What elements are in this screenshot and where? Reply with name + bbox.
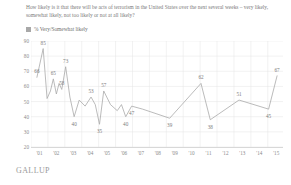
data-point-label: 73 — [63, 58, 68, 64]
data-point-label: 62 — [198, 74, 203, 80]
data-point-label: 66 — [34, 68, 39, 74]
x-tick-label: '07 — [138, 150, 144, 156]
x-tick-label: '14 — [256, 150, 262, 156]
gallup-logo: GALLUP — [16, 166, 50, 175]
x-tick-label: '09 — [172, 150, 178, 156]
x-tick-label: '08 — [155, 150, 161, 156]
data-point-label: 35 — [97, 128, 102, 134]
x-tick-label: '02 — [53, 150, 59, 156]
x-tick-label: '15 — [273, 150, 279, 156]
y-tick-label: 40 — [24, 114, 29, 120]
x-tick-label: '05 — [104, 150, 110, 156]
y-tick-label: 80 — [24, 53, 29, 59]
y-tick-label: 60 — [24, 83, 29, 89]
y-tick-label: 20 — [24, 144, 29, 150]
data-point-label: 58 — [59, 80, 64, 86]
legend-swatch-icon — [26, 27, 31, 32]
data-point-label: 65 — [51, 70, 56, 76]
chart-legend: % Very/Somewhat likely — [26, 26, 88, 32]
chart-question-title: How likely is it that there will be acts… — [26, 3, 276, 19]
data-point-label: 53 — [88, 88, 93, 94]
data-point-label: 47 — [129, 110, 134, 116]
y-tick-label: 50 — [24, 99, 29, 105]
x-tick-label: '13 — [239, 150, 245, 156]
x-axis-baseline — [31, 147, 283, 148]
x-tick-label: '03 — [70, 150, 76, 156]
chart-plot-area — [31, 41, 283, 147]
data-point-label: 40 — [72, 121, 77, 127]
data-point-label: 39 — [167, 122, 172, 128]
x-tick-label: '11 — [206, 150, 212, 156]
data-point-label: 57 — [101, 82, 106, 88]
x-tick-label: '10 — [189, 150, 195, 156]
y-tick-label: 70 — [24, 68, 29, 74]
x-tick-label: '04 — [87, 150, 93, 156]
x-tick-label: '01 — [36, 150, 42, 156]
y-tick-label: 90 — [24, 38, 29, 44]
gridlines — [31, 41, 283, 147]
legend-label: % Very/Somewhat likely — [34, 26, 88, 32]
y-axis-labels: 2030405060708090 — [14, 38, 29, 150]
x-tick-label: '06 — [121, 150, 127, 156]
line-chart-svg — [31, 41, 283, 147]
data-point-label: 85 — [41, 40, 46, 46]
x-tick-label: '12 — [222, 150, 228, 156]
data-point-label: 45 — [266, 113, 271, 119]
data-point-label: 40 — [123, 121, 128, 127]
x-axis-labels: '01'02'03'04'05'06'07'08'09'10'11'12'13'… — [31, 149, 283, 159]
y-tick-label: 30 — [24, 129, 29, 135]
data-point-label: 67 — [274, 67, 279, 73]
data-point-label: 38 — [208, 124, 213, 130]
data-point-label: 51 — [236, 91, 241, 97]
